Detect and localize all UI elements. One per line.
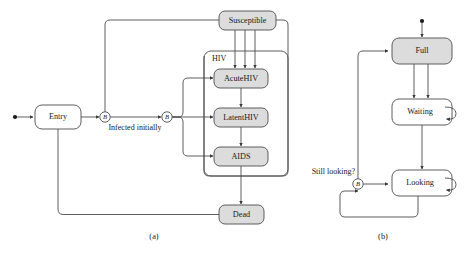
edge-branch-to-full bbox=[358, 51, 388, 179]
hiv-group-label: HIV bbox=[212, 54, 226, 63]
node-aids-label: AIDS bbox=[231, 152, 251, 161]
panel-b-caption: (b) bbox=[378, 232, 388, 241]
node-dead-label: Dead bbox=[233, 210, 250, 219]
start-dot-b bbox=[420, 19, 424, 23]
panel-b: Full Waiting Looking B Still looking? bbox=[312, 19, 456, 241]
node-looking-label: Looking bbox=[406, 178, 434, 187]
node-latenthiv-label: LatentHIV bbox=[223, 113, 259, 122]
branch-a1-label: B bbox=[103, 113, 107, 120]
edge-label-still-looking: Still looking? bbox=[312, 167, 356, 176]
edge-branch2-to-acutehiv bbox=[172, 78, 213, 117]
node-waiting-label: Waiting bbox=[407, 107, 433, 116]
start-dot-a bbox=[13, 115, 17, 119]
node-entry-label: Entry bbox=[49, 112, 68, 121]
state-diagram: HIV Entry B Infected initially B bbox=[0, 0, 473, 254]
node-acutehiv-label: AcuteHIV bbox=[224, 74, 258, 83]
panel-a: HIV Entry B Infected initially B bbox=[13, 11, 288, 241]
branch-b1-label: B bbox=[356, 180, 360, 187]
node-susceptible-label: Susceptible bbox=[229, 16, 267, 25]
edge-label-infected-initially: Infected initially bbox=[108, 123, 161, 132]
edge-entry-to-dead bbox=[58, 129, 219, 215]
figure-canvas: HIV Entry B Infected initially B bbox=[0, 0, 473, 254]
panel-a-caption: (a) bbox=[149, 232, 159, 241]
edge-branch1-to-susceptible bbox=[105, 20, 219, 112]
edge-branch2-to-aids bbox=[172, 117, 213, 156]
branch-a2-label: B bbox=[165, 113, 169, 120]
node-full-label: Full bbox=[415, 46, 429, 55]
